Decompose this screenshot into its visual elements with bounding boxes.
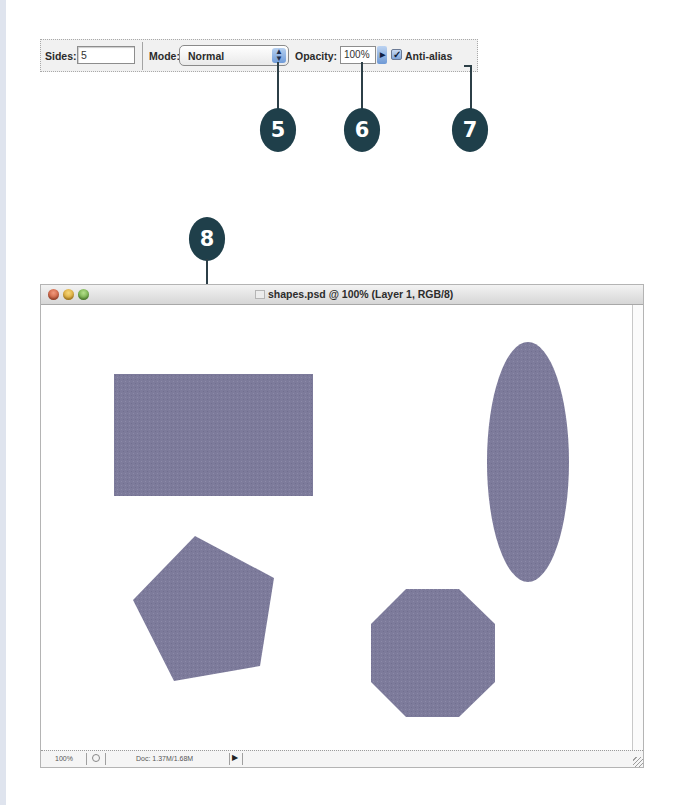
- mode-label: Mode:: [149, 50, 180, 62]
- close-button[interactable]: [48, 289, 59, 300]
- status-divider: [229, 753, 230, 765]
- page-left-border: [0, 0, 6, 805]
- play-arrow-icon: ▶: [380, 51, 385, 58]
- callout-badge: 7: [452, 108, 488, 152]
- toolbar-divider: [142, 42, 143, 70]
- mode-select-value: Normal: [188, 50, 224, 62]
- sides-input[interactable]: 5: [77, 46, 135, 64]
- status-divider: [105, 753, 106, 765]
- image-canvas[interactable]: [41, 305, 633, 751]
- anti-alias-label: Anti-alias: [405, 50, 452, 62]
- status-divider: [86, 753, 87, 765]
- sides-label: Sides:: [45, 50, 77, 62]
- octagon-shape[interactable]: [371, 589, 495, 717]
- callout-leader-line: [277, 62, 279, 114]
- canvas-shapes: [41, 305, 633, 751]
- callout-badge: 5: [260, 108, 296, 152]
- callout-leader-line: [470, 65, 472, 114]
- rectangle-shape[interactable]: [114, 374, 313, 496]
- document-window: shapes.psd @ 100% (Layer 1, RGB/8) 100% …: [40, 284, 644, 768]
- opacity-label: Opacity:: [295, 50, 337, 62]
- vertical-scrollbar[interactable]: [632, 305, 643, 751]
- opacity-slider-button[interactable]: ▶: [377, 46, 387, 64]
- window-title-bar[interactable]: shapes.psd @ 100% (Layer 1, RGB/8): [41, 285, 643, 305]
- anti-alias-checkbox[interactable]: ✓: [391, 49, 402, 60]
- checkmark-icon: ✓: [393, 49, 401, 60]
- shape-options-toolbar: Sides: 5 Mode: Normal ▲▼ Opacity: 100% ▶…: [40, 39, 478, 72]
- mode-select[interactable]: Normal ▲▼: [179, 45, 289, 66]
- globe-icon[interactable]: [92, 754, 100, 762]
- document-icon: [255, 290, 265, 299]
- status-bar: 100% Doc: 1.37M/1.68M ▶: [41, 750, 643, 767]
- ellipse-shape[interactable]: [487, 342, 569, 582]
- opacity-field[interactable]: 100%: [340, 46, 376, 64]
- zoom-button[interactable]: [78, 289, 89, 300]
- status-divider: [242, 753, 243, 765]
- window-title: shapes.psd @ 100% (Layer 1, RGB/8): [255, 288, 453, 300]
- updown-arrows-icon: ▲▼: [272, 48, 286, 63]
- window-title-text: shapes.psd @ 100% (Layer 1, RGB/8): [268, 288, 453, 300]
- zoom-level[interactable]: 100%: [55, 755, 73, 762]
- pentagon-shape[interactable]: [133, 536, 274, 681]
- callout-badge: 8: [189, 217, 225, 261]
- minimize-button[interactable]: [63, 289, 74, 300]
- callout-leader-line: [361, 62, 363, 114]
- doc-size: Doc: 1.37M/1.68M: [136, 755, 193, 762]
- resize-grip[interactable]: [633, 757, 643, 767]
- status-menu-arrow-icon[interactable]: ▶: [232, 753, 238, 762]
- callout-badge: 6: [344, 108, 380, 152]
